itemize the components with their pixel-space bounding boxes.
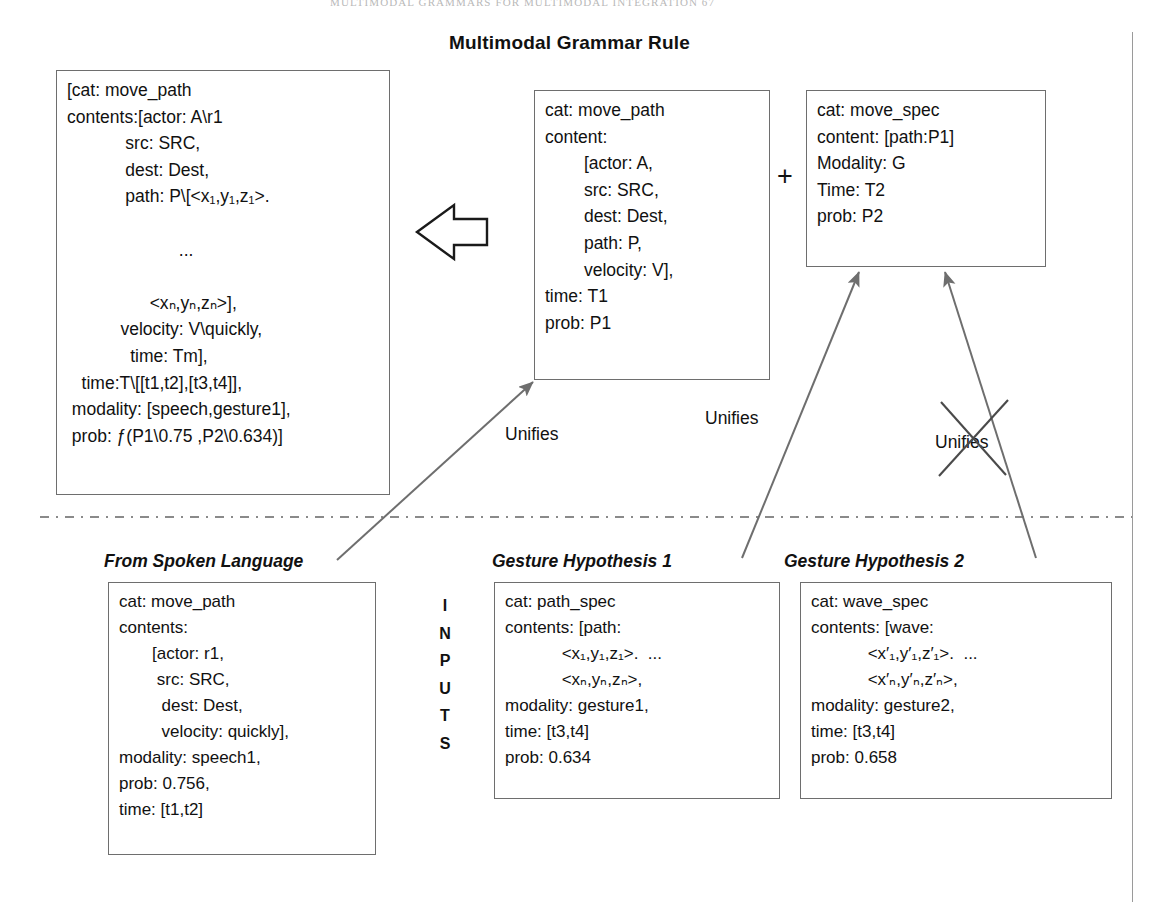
fs-line: content: [path:P1] — [817, 124, 1041, 151]
caption-gesture-hypothesis-1: Gesture Hypothesis 1 — [492, 551, 672, 572]
plus-operator: + — [777, 163, 793, 190]
fs-line: cat: move_path — [545, 97, 765, 124]
fs-line: src: SRC, — [67, 130, 385, 157]
unifies-label-3: Unifies — [935, 432, 989, 453]
fs-line: time: [t3,t4] — [811, 719, 1107, 745]
gesture-hypothesis-2-text: cat: wave_speccontents: [wave: <x′₁,y′₁,… — [811, 589, 1107, 771]
page-margin-rule — [1132, 32, 1133, 902]
fs-line: [actor: A, — [545, 150, 765, 177]
fs-line: contents: [wave: — [811, 615, 1107, 641]
inputs-letter: I — [432, 592, 458, 620]
fs-line: [cat: move_path — [67, 77, 385, 104]
inputs-label: INPUTS — [432, 592, 458, 757]
derivation-block-arrow — [417, 205, 487, 259]
unifies-label-1: Unifies — [505, 424, 559, 445]
gesture-hypothesis-2-box: cat: wave_speccontents: [wave: <x′₁,y′₁,… — [800, 582, 1112, 799]
move-spec-rule-text: cat: move_speccontent: [path:P1]Modality… — [817, 97, 1041, 230]
figure-title: Multimodal Grammar Rule — [449, 32, 690, 54]
fs-line: content: — [545, 124, 765, 151]
fs-line: path: P, — [545, 230, 765, 257]
spoken-language-input-box: cat: move_pathcontents: [actor: r1, src:… — [108, 582, 376, 855]
fs-line — [67, 210, 385, 237]
fs-line: velocity: V\quickly, — [67, 316, 385, 343]
caption-spoken-language: From Spoken Language — [104, 551, 303, 572]
move-path-rule-box: cat: move_pathcontent: [actor: A, src: S… — [534, 90, 770, 380]
spoken-language-input-text: cat: move_pathcontents: [actor: r1, src:… — [119, 589, 371, 823]
fs-line: modality: gesture2, — [811, 693, 1107, 719]
fs-line: <x′₁,y′₁,z′₁>. ... — [811, 641, 1107, 667]
fs-line: prob: ƒ(P1\0.75 ,P2\0.634)] — [67, 423, 385, 450]
fs-line: velocity: quickly], — [119, 719, 371, 745]
fs-line: cat: wave_spec — [811, 589, 1107, 615]
fs-line: modality: speech1, — [119, 745, 371, 771]
fs-line — [67, 263, 385, 290]
fs-line: modality: [speech,gesture1], — [67, 396, 385, 423]
fs-line: time: [t3,t4] — [505, 719, 775, 745]
fs-line: cat: move_path — [119, 589, 371, 615]
fs-line: time: Tm], — [67, 343, 385, 370]
fs-line: <x₁,y₁,z₁>. ... — [505, 641, 775, 667]
gesture-hypothesis-1-box: cat: path_speccontents: [path: <x₁,y₁,z₁… — [494, 582, 780, 799]
fs-line: dest: Dest, — [119, 693, 371, 719]
fs-line: src: SRC, — [119, 667, 371, 693]
fs-line: prob: 0.756, — [119, 771, 371, 797]
inputs-letter: U — [432, 675, 458, 703]
caption-gesture-hypothesis-2: Gesture Hypothesis 2 — [784, 551, 964, 572]
inputs-letter: P — [432, 647, 458, 675]
move-spec-rule-box: cat: move_speccontent: [path:P1]Modality… — [806, 90, 1046, 267]
fs-line: contents: [path: — [505, 615, 775, 641]
fs-line: time: [t1,t2] — [119, 797, 371, 823]
inputs-letter: S — [432, 730, 458, 758]
gesture-hypothesis-1-text: cat: path_speccontents: [path: <x₁,y₁,z₁… — [505, 589, 775, 771]
move-path-rule-text: cat: move_pathcontent: [actor: A, src: S… — [545, 97, 765, 336]
unified-result-text: [cat: move_pathcontents:[actor: A\r1 src… — [67, 77, 385, 449]
fs-line: prob: P2 — [817, 203, 1041, 230]
fs-line: <xₙ,yₙ,zₙ>], — [67, 290, 385, 317]
fs-line: time:T\[[t1,t2],[t3,t4]], — [67, 370, 385, 397]
unified-result-box: [cat: move_pathcontents:[actor: A\r1 src… — [56, 70, 390, 495]
fs-line: prob: P1 — [545, 310, 765, 337]
running-head: MULTIMODAL GRAMMARS FOR MULTIMODAL INTEG… — [330, 0, 1130, 8]
fs-line: contents:[actor: A\r1 — [67, 104, 385, 131]
fs-line: contents: — [119, 615, 371, 641]
fs-line: prob: 0.634 — [505, 745, 775, 771]
fs-line: prob: 0.658 — [811, 745, 1107, 771]
inputs-letter: T — [432, 702, 458, 730]
connector-gesture2-to-movespec — [945, 272, 1036, 558]
unifies-label-2: Unifies — [705, 408, 759, 429]
fs-line: Modality: G — [817, 150, 1041, 177]
fs-line: cat: move_spec — [817, 97, 1041, 124]
fs-line: <xₙ,yₙ,zₙ>, — [505, 667, 775, 693]
fs-line: <x′ₙ,y′ₙ,z′ₙ>, — [811, 667, 1107, 693]
fs-line: [actor: r1, — [119, 641, 371, 667]
figure-canvas: MULTIMODAL GRAMMARS FOR MULTIMODAL INTEG… — [0, 0, 1159, 902]
inputs-letter: N — [432, 620, 458, 648]
fs-line: cat: path_spec — [505, 589, 775, 615]
fs-line: src: SRC, — [545, 177, 765, 204]
fs-line: dest: Dest, — [545, 203, 765, 230]
fs-line: time: T1 — [545, 283, 765, 310]
fs-line: velocity: V], — [545, 257, 765, 284]
fs-line: ... — [67, 237, 385, 264]
fs-line: Time: T2 — [817, 177, 1041, 204]
fs-line: dest: Dest, — [67, 157, 385, 184]
fs-line: path: P\[<x₁,y₁,z₁>. — [67, 183, 385, 210]
fs-line: modality: gesture1, — [505, 693, 775, 719]
